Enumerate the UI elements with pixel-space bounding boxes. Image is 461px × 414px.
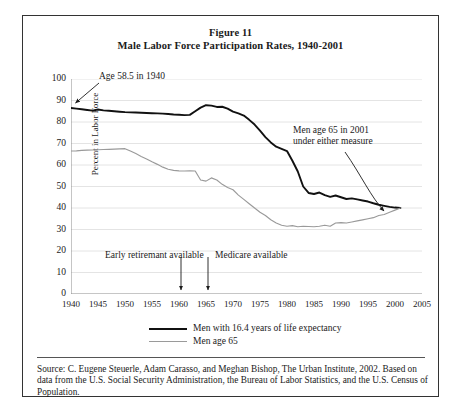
gridlines — [71, 79, 422, 273]
legend-item-life-expectancy: Men with 16.4 years of life expectancy — [149, 322, 342, 335]
y-tick-70: 70 — [42, 139, 66, 149]
y-tick-80: 80 — [42, 117, 66, 127]
legend-line-swatch-black — [149, 328, 187, 330]
legend-line-swatch-gray — [149, 341, 187, 342]
figure-title-line-1: Figure 11 — [23, 26, 438, 39]
series-path-1 — [71, 149, 400, 227]
annotation-age-58-5: Age 58.5 in 1940 — [99, 71, 165, 82]
chart-legend: Men with 16.4 years of life expectancy M… — [149, 322, 342, 348]
chart-svg — [71, 79, 422, 294]
figure-frame: Figure 11 Male Labor Force Participation… — [22, 15, 439, 397]
x-tick-2005: 2005 — [405, 299, 439, 309]
legend-label-life-expectancy: Men with 16.4 years of life expectancy — [193, 322, 342, 335]
y-tick-20: 20 — [42, 246, 66, 256]
y-tick-40: 40 — [42, 203, 66, 213]
figure-title: Figure 11 Male Labor Force Participation… — [23, 26, 438, 52]
source-note: Source: C. Eugene Steuerle, Adam Carasso… — [37, 364, 429, 398]
annotation-medicare: Medicare available — [215, 250, 288, 261]
chart-plot-area: Percent in Labor Force 01020304050607080… — [71, 79, 422, 294]
y-tick-30: 30 — [42, 225, 66, 235]
y-tick-100: 100 — [42, 74, 66, 84]
annotation-early-retirement: Early retiremant available — [105, 250, 204, 261]
annotation-men-age-65-line-1: Men age 65 in 2001 — [293, 125, 369, 135]
annotation-men-age-65-line-2: under either measure — [293, 136, 373, 146]
legend-item-age-65: Men age 65 — [149, 335, 342, 348]
y-tick-60: 60 — [42, 160, 66, 170]
y-tick-90: 90 — [42, 96, 66, 106]
legend-label-age-65: Men age 65 — [193, 335, 238, 348]
y-tick-0: 0 — [42, 289, 66, 299]
figure-title-line-2: Male Labor Force Participation Rates, 19… — [23, 39, 438, 52]
annotation-men-age-65: Men age 65 in 2001 under either measure — [293, 125, 373, 147]
source-divider — [37, 357, 425, 358]
y-tick-10: 10 — [42, 268, 66, 278]
y-tick-50: 50 — [42, 182, 66, 192]
